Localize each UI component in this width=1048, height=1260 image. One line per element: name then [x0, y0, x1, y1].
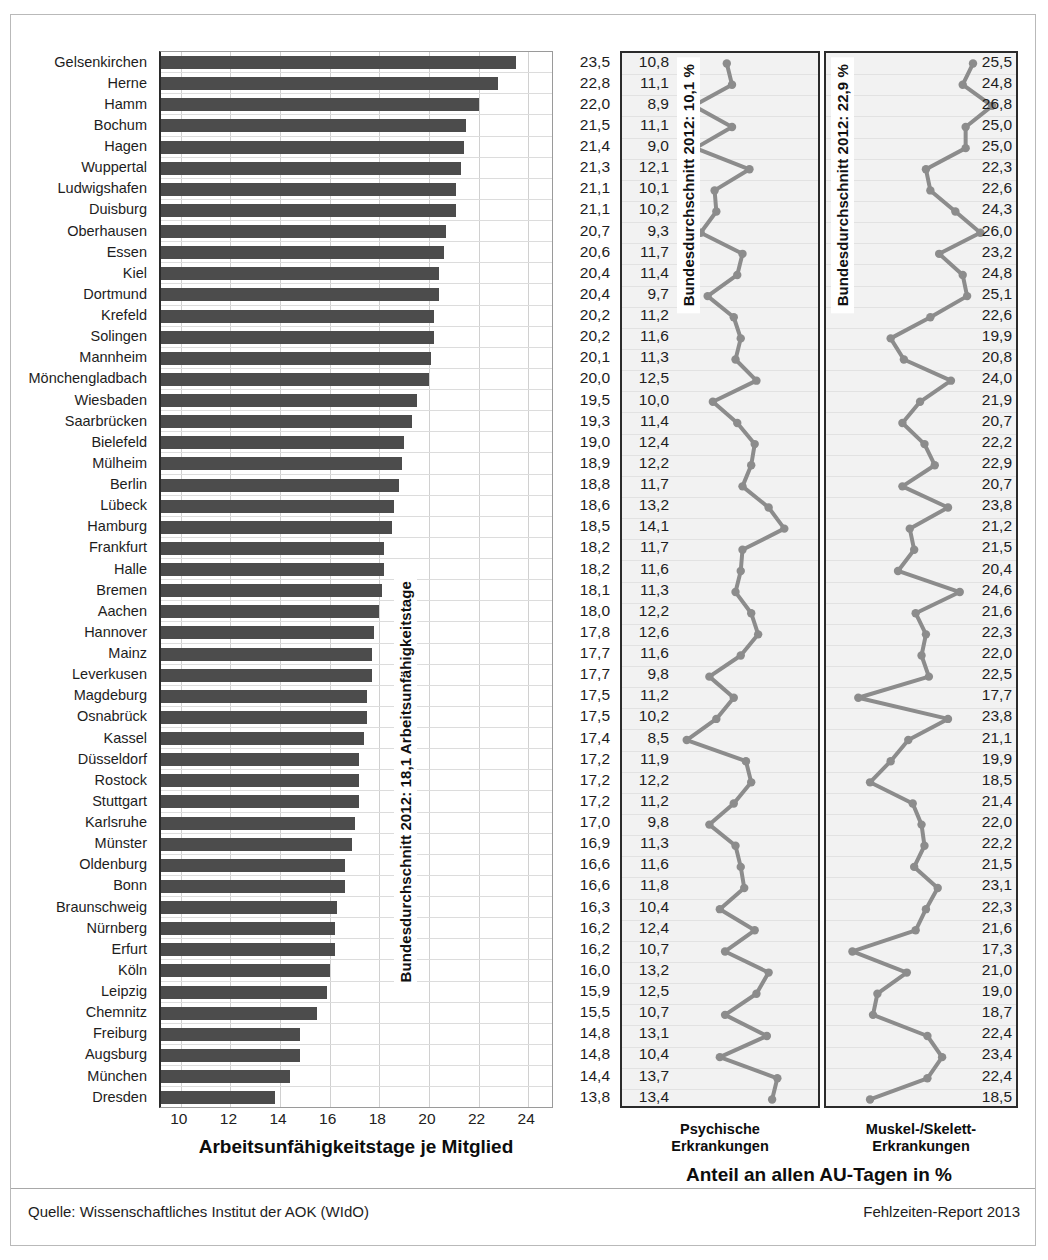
x-axis-ticks: 1012141618202224: [159, 1110, 553, 1132]
city-label: Köln: [0, 959, 153, 980]
psychische-value: 10,4: [624, 896, 674, 917]
bar-row: [161, 348, 552, 369]
left-average-caption: Bundesdurchschnitt 2012: 18,1 Arbeitsunf…: [394, 574, 417, 990]
city-label: Hagen: [0, 136, 153, 157]
bar: [161, 141, 464, 154]
series-point: [911, 926, 919, 934]
au-days-value: 20,7: [553, 220, 615, 241]
psychische-value: 12,5: [624, 981, 674, 1002]
psychische-value: 12,5: [624, 368, 674, 389]
bar: [161, 204, 456, 217]
bar: [161, 880, 345, 893]
city-label: Bielefeld: [0, 431, 153, 452]
city-label: Leverkusen: [0, 664, 153, 685]
x-tick-label: 14: [269, 1110, 286, 1128]
bar: [161, 626, 374, 639]
bar: [161, 246, 444, 259]
muskel-value: 20,7: [955, 410, 1017, 431]
muskel-value: 22,2: [955, 431, 1017, 452]
series-point: [911, 609, 919, 617]
bar-row: [161, 200, 552, 221]
psychische-value: 9,8: [624, 812, 674, 833]
series-point: [944, 503, 952, 511]
x-tick-label: 16: [319, 1110, 336, 1128]
psychische-value: 11,3: [624, 833, 674, 854]
muskel-value: 21,5: [955, 537, 1017, 558]
muskel-value: 22,4: [955, 1023, 1017, 1044]
muskel-value: 19,9: [955, 326, 1017, 347]
bar-row: [161, 390, 552, 411]
city-label: Bonn: [0, 875, 153, 896]
psychische-value: 13,4: [624, 1086, 674, 1107]
city-label: Erfurt: [0, 938, 153, 959]
footer-divider: [11, 1188, 1035, 1189]
psychische-value: 9,3: [624, 220, 674, 241]
au-days-value: 17,5: [553, 706, 615, 727]
muskel-title-line2: Erkrankungen: [824, 1138, 1018, 1155]
city-label: Wiesbaden: [0, 389, 153, 410]
series-point: [906, 524, 914, 532]
bar-row: [161, 707, 552, 728]
psychische-value: 11,3: [624, 579, 674, 600]
muskel-value: 22,3: [955, 621, 1017, 642]
bar-row: [161, 179, 552, 200]
muskel-average-caption: Bundesdurchschnitt 2012: 22,9 %: [831, 57, 854, 313]
bar-row: [161, 622, 552, 643]
series-point: [935, 250, 943, 258]
bar-row: [161, 749, 552, 770]
psychische-value: 11,3: [624, 347, 674, 368]
bar-row: [161, 242, 552, 263]
psychische-value: 8,9: [624, 93, 674, 114]
psychische-value: 11,9: [624, 748, 674, 769]
series-point: [768, 1095, 776, 1103]
bar: [161, 1091, 275, 1104]
city-label: Karlsruhe: [0, 812, 153, 833]
psychische-value: 13,2: [624, 959, 674, 980]
au-days-value: 18,2: [553, 537, 615, 558]
au-days-value: 18,5: [553, 516, 615, 537]
bar-row: [161, 665, 552, 686]
au-days-value: 20,0: [553, 368, 615, 389]
bar: [161, 817, 355, 830]
city-label: Hamburg: [0, 516, 153, 537]
muskel-value: 24,6: [955, 579, 1017, 600]
series-point: [923, 1032, 931, 1040]
bar-row: [161, 73, 552, 94]
bar-row: [161, 432, 552, 453]
series-point: [738, 250, 746, 258]
bar-row: [161, 1087, 552, 1108]
series-point: [737, 863, 745, 871]
series-point: [920, 842, 928, 850]
bar: [161, 288, 439, 301]
x-axis-title: Arbeitsunfähigkeitstage je Mitglied: [159, 1136, 553, 1158]
series-point: [898, 419, 906, 427]
psychische-value: 10,1: [624, 178, 674, 199]
psychische-value: 12,2: [624, 600, 674, 621]
city-label: Magdeburg: [0, 685, 153, 706]
au-days-value: 17,0: [553, 812, 615, 833]
au-days-value: 17,8: [553, 621, 615, 642]
psychische-value-column: 10,811,18,911,19,012,110,110,29,311,711,…: [624, 51, 674, 1108]
city-label: Osnabrück: [0, 706, 153, 727]
series-point: [750, 926, 758, 934]
au-days-value: 21,3: [553, 157, 615, 178]
muskel-value: 21,6: [955, 600, 1017, 621]
city-label: Kiel: [0, 262, 153, 283]
psychische-value: 11,6: [624, 558, 674, 579]
au-days-value: 16,2: [553, 938, 615, 959]
series-point: [916, 398, 924, 406]
series-point: [754, 630, 762, 638]
muskel-value: 18,5: [955, 1086, 1017, 1107]
city-label: Herne: [0, 72, 153, 93]
series-point: [742, 757, 750, 765]
bar: [161, 1028, 300, 1041]
city-label: Bochum: [0, 114, 153, 135]
city-label: Gelsenkirchen: [0, 51, 153, 72]
au-days-value: 14,8: [553, 1044, 615, 1065]
bar-chart-panel: [159, 51, 553, 1108]
series-point: [710, 186, 718, 194]
series-point: [922, 165, 930, 173]
city-label: Hamm: [0, 93, 153, 114]
au-days-value: 21,1: [553, 199, 615, 220]
psychische-value: 11,2: [624, 685, 674, 706]
